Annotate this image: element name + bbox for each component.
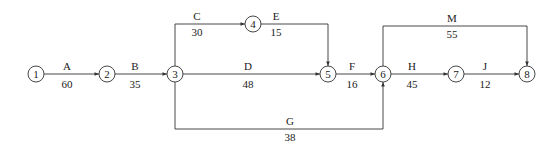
node-4: 4 (245, 16, 261, 32)
network-diagram: A 60 B 35 C 30 E 15 D 48 F 16 G 38 M 55 … (0, 0, 555, 150)
edge-E-name: E (273, 10, 280, 22)
node-6: 6 (375, 66, 391, 82)
edge-B-duration: 35 (130, 78, 142, 90)
node-8-label: 8 (524, 68, 530, 80)
edge-J-name: J (483, 60, 488, 72)
node-6-label: 6 (380, 68, 386, 80)
edge-E-duration: 15 (271, 26, 283, 38)
edge-D-duration: 48 (243, 78, 255, 90)
edge-F-name: F (349, 60, 355, 72)
node-5: 5 (320, 66, 336, 82)
node-2: 2 (99, 66, 115, 82)
node-7: 7 (448, 66, 464, 82)
node-1-label: 1 (33, 68, 39, 80)
edge-C-duration: 30 (192, 26, 204, 38)
edge-M-duration: 55 (447, 28, 459, 40)
edge-F-duration: 16 (347, 78, 359, 90)
edge-labels: A 60 B 35 C 30 E 15 D 48 F 16 G 38 M 55 … (62, 10, 491, 143)
edge-D-name: D (244, 60, 252, 72)
edge-C-name: C (193, 10, 200, 22)
edge-G-name: G (286, 115, 294, 127)
edge-H-name: H (408, 60, 416, 72)
edge-A-name: A (63, 60, 71, 72)
node-1: 1 (28, 66, 44, 82)
edge-A-duration: 60 (62, 78, 74, 90)
node-3: 3 (167, 66, 183, 82)
node-2-label: 2 (104, 68, 110, 80)
edge-M-name: M (447, 12, 457, 24)
edge-B-name: B (131, 60, 138, 72)
node-8: 8 (519, 66, 535, 82)
edge-J-duration: 12 (480, 78, 491, 90)
node-7-label: 7 (453, 68, 459, 80)
node-3-label: 3 (172, 68, 178, 80)
edge-G-duration: 38 (285, 131, 297, 143)
node-5-label: 5 (325, 68, 331, 80)
edge-H-duration: 45 (407, 78, 419, 90)
edge-C (175, 24, 245, 66)
node-4-label: 4 (250, 18, 256, 30)
